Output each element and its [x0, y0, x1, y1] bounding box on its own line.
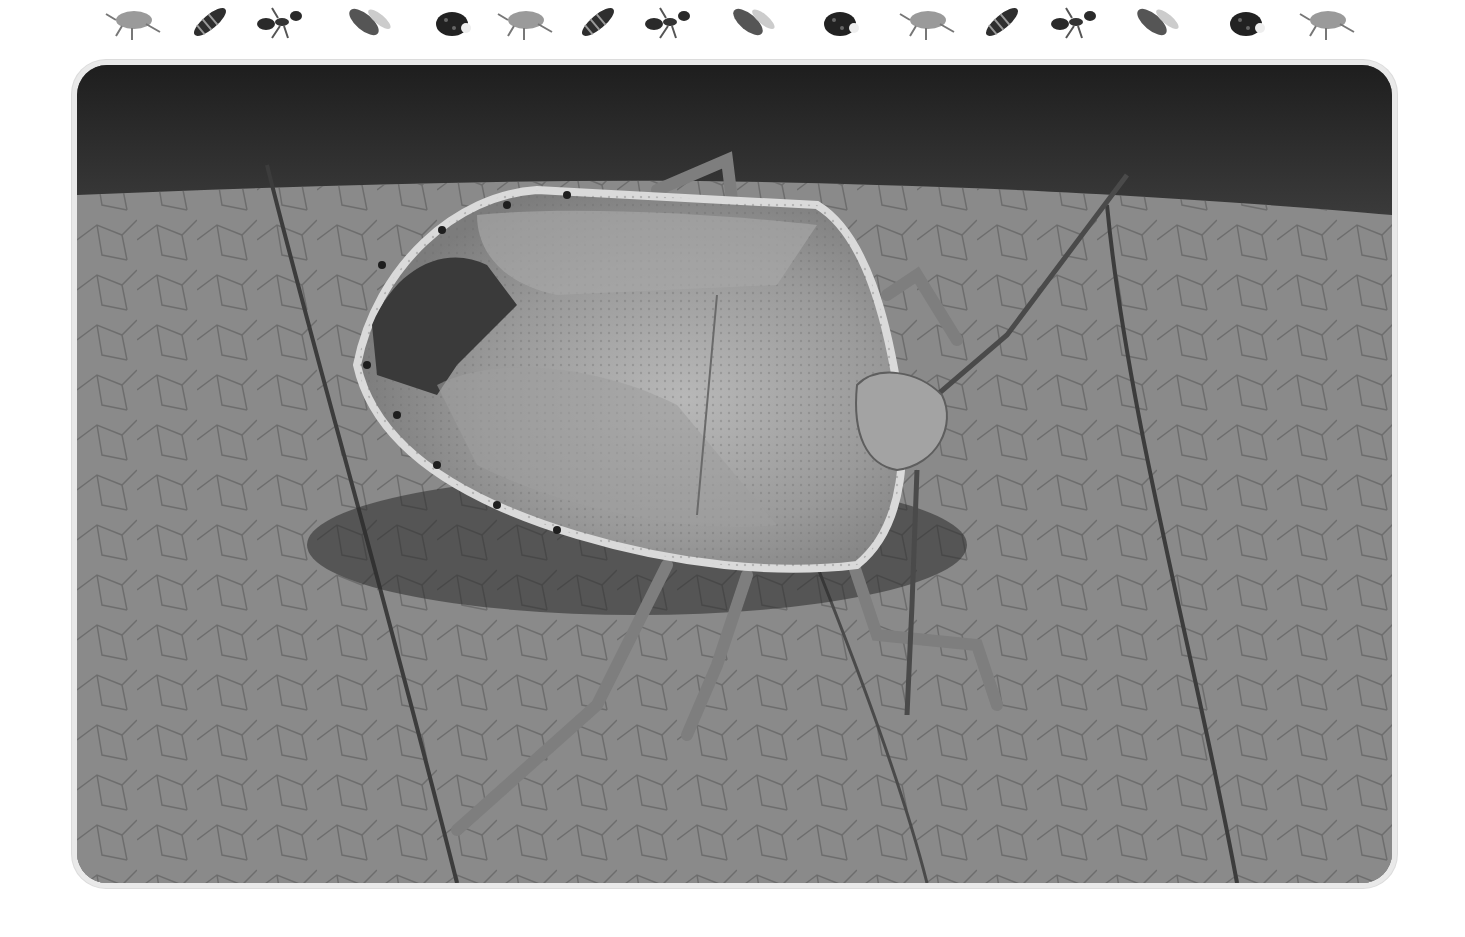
- ladybug-icon: [1218, 2, 1278, 42]
- wasp-icon: [972, 2, 1032, 42]
- shield-bug-illustration: [77, 65, 1392, 883]
- beetle-icon: [1296, 2, 1356, 42]
- beetle-icon: [102, 2, 162, 42]
- bee-icon: [718, 2, 778, 42]
- ant-icon: [1046, 2, 1106, 42]
- bee-icon: [1122, 2, 1182, 42]
- photo-frame: [72, 60, 1397, 888]
- wasp-icon: [568, 2, 628, 42]
- beetle-icon: [896, 2, 956, 42]
- bee-icon: [334, 2, 394, 42]
- ant-icon: [640, 2, 700, 42]
- ladybug-icon: [424, 2, 484, 42]
- wasp-icon: [180, 2, 240, 42]
- insect-border-strip: [0, 0, 1465, 46]
- ladybug-icon: [812, 2, 872, 42]
- ant-icon: [252, 2, 312, 42]
- shield-bug-photo: [77, 65, 1392, 883]
- beetle-icon: [494, 2, 554, 42]
